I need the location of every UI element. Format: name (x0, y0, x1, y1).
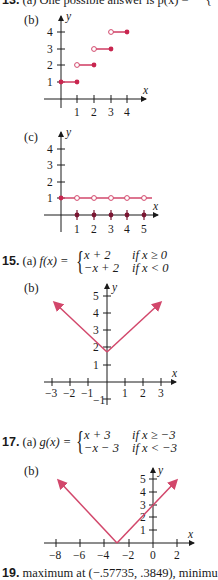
part-label: (a) (23, 435, 37, 449)
footer-partial-line: 19. maximum at (−.57735, .3849), minimu (2, 567, 218, 580)
svg-text:1: 1 (74, 223, 80, 235)
svg-text:1: 1 (140, 524, 146, 536)
svg-text:1: 1 (122, 387, 128, 399)
svg-text:1: 1 (93, 359, 99, 371)
svg-text:5: 5 (140, 473, 146, 485)
chart-13b: y x 1234 1234 (0, 0, 208, 120)
svg-text:−1: −1 (93, 394, 105, 405)
svg-text:−2: −2 (63, 387, 75, 399)
piecewise-cases-15: x + 2if x ≥ 0 −x + 2if x < 0 (84, 249, 169, 275)
svg-text:4: 4 (93, 307, 99, 319)
svg-text:x: x (142, 84, 149, 96)
svg-text:5: 5 (141, 223, 147, 235)
footer-text: maximum at (−.57735, .3849), minimu (23, 566, 218, 580)
svg-text:−6: −6 (73, 549, 85, 560)
svg-text:x: x (171, 367, 178, 379)
problem-number: 17. (2, 435, 19, 449)
svg-text:2: 2 (47, 59, 53, 71)
svg-text:3: 3 (47, 43, 53, 55)
part-label: (a) (23, 254, 37, 268)
svg-text:2: 2 (47, 176, 53, 188)
svg-text:1: 1 (47, 192, 53, 204)
svg-text:3: 3 (158, 387, 164, 399)
svg-text:3: 3 (47, 159, 53, 171)
svg-text:3: 3 (108, 223, 114, 235)
piecewise-cases-17: x + 3if x ≥ −3 −x − 3if x < −3 (84, 429, 177, 455)
svg-text:y: y (111, 281, 118, 294)
svg-text:4: 4 (47, 143, 53, 155)
svg-text:−3: −3 (45, 387, 57, 399)
chart-15b: y x 12345 −3−2−1 −1 123 (0, 280, 208, 405)
svg-text:x: x (152, 200, 159, 212)
svg-text:0: 0 (150, 549, 156, 560)
svg-text:y: y (65, 10, 72, 23)
svg-text:2: 2 (91, 223, 97, 235)
brace: { (76, 247, 84, 275)
svg-text:−1: −1 (81, 387, 93, 399)
svg-text:4: 4 (47, 26, 53, 38)
case-cond: if x ≥ −3 (132, 428, 175, 442)
svg-text:−2: −2 (122, 549, 134, 560)
problem-15-line: 15. (a) f(x) = (2, 255, 68, 268)
svg-text:3: 3 (140, 499, 146, 511)
svg-text:1: 1 (47, 76, 53, 88)
chart-17b: y x 12345 −8−6−4−2 02 (0, 465, 208, 560)
case-cond: if x < 0 (132, 261, 169, 275)
svg-text:y: y (157, 465, 164, 477)
chart-13c: y x 1234 12345 (0, 117, 208, 237)
svg-text:3: 3 (93, 324, 99, 336)
case-cond: if x ≥ 0 (132, 248, 167, 262)
svg-text:−4: −4 (97, 549, 109, 560)
function-lhs: g(x) = (40, 435, 72, 449)
svg-text:2: 2 (174, 549, 180, 560)
svg-text:2: 2 (140, 387, 146, 399)
svg-text:y: y (65, 126, 72, 139)
svg-text:4: 4 (124, 223, 130, 235)
function-lhs: f(x) = (40, 254, 69, 268)
problem-17-line: 17. (a) g(x) = (2, 436, 71, 449)
svg-text:x: x (187, 528, 194, 540)
brace: { (76, 427, 84, 455)
svg-text:5: 5 (93, 290, 99, 302)
case-expr: −x + 2 (84, 262, 132, 275)
case-cond: if x < −3 (132, 441, 177, 455)
svg-text:−8: −8 (49, 549, 61, 560)
case-expr: −x − 3 (84, 442, 132, 455)
problem-number: 15. (2, 254, 19, 268)
svg-text:4: 4 (140, 486, 146, 498)
problem-number: 19. (2, 566, 19, 580)
